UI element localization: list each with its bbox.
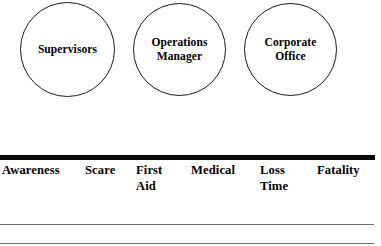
table-rule-upper <box>0 224 374 225</box>
node-supervisors[interactable]: Supervisors <box>20 2 115 97</box>
node-operations-manager[interactable]: Operations Manager <box>133 3 226 96</box>
scale-item-first-aid: First Aid <box>136 163 162 194</box>
table-rule-lower <box>0 243 374 244</box>
node-supervisors-label: Supervisors <box>34 43 101 57</box>
node-corporate-office-label: Corporate Office <box>261 36 321 63</box>
scale-item-scare: Scare <box>85 163 115 179</box>
scale-item-medical: Medical <box>191 163 235 179</box>
node-operations-manager-label: Operations Manager <box>148 36 212 63</box>
scale-item-fatality: Fatality <box>317 163 360 179</box>
node-corporate-office[interactable]: Corporate Office <box>244 3 337 96</box>
scale-item-loss-time: Loss Time <box>260 163 288 194</box>
diagram-canvas: Supervisors Operations Manager Corporate… <box>0 0 381 246</box>
scale-item-awareness: Awareness <box>2 163 60 179</box>
severity-scale-top-bar <box>0 155 375 160</box>
severity-scale-row: Awareness Scare First Aid Medical Loss T… <box>0 163 377 209</box>
